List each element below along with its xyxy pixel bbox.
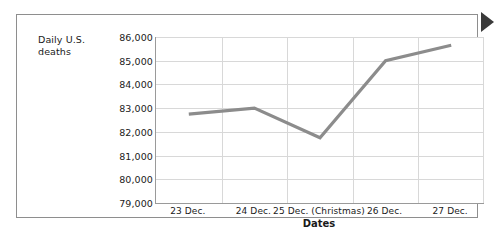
- plot-area: [155, 37, 484, 204]
- x-axis-tick-label: 27 Dec.: [433, 206, 468, 216]
- y-axis-tick-label: 86,000: [119, 32, 153, 43]
- y-axis-tick-label: 79,000: [119, 198, 153, 209]
- chart-screenshot: Daily U.S. deaths 86,00085,00084,00083,0…: [0, 0, 501, 238]
- y-axis-tick-label: 83,000: [119, 103, 153, 114]
- x-axis-tick-label: 25 Dec. (Christmas): [273, 206, 365, 216]
- x-axis-tick-label: 24 Dec.: [236, 206, 271, 216]
- y-axis-tick-label: 81,000: [119, 150, 153, 161]
- x-axis-tick-label: 26 Dec.: [367, 206, 402, 216]
- y-axis-tick-label: 85,000: [119, 55, 153, 66]
- x-axis-title: Dates: [155, 218, 483, 229]
- data-series-line: [156, 37, 484, 203]
- y-axis-tick-label: 80,000: [119, 174, 153, 185]
- y-axis-tick-label: 82,000: [119, 126, 153, 137]
- y-axis-tick-labels: 86,00085,00084,00083,00082,00081,00080,0…: [101, 31, 153, 207]
- right-pointer-triangle-icon: [481, 12, 494, 32]
- chart-panel: Daily U.S. deaths 86,00085,00084,00083,0…: [16, 14, 478, 218]
- y-axis-title: Daily U.S. deaths: [38, 34, 100, 58]
- x-axis-tick-label: 23 Dec.: [170, 206, 205, 216]
- y-axis-tick-label: 84,000: [119, 79, 153, 90]
